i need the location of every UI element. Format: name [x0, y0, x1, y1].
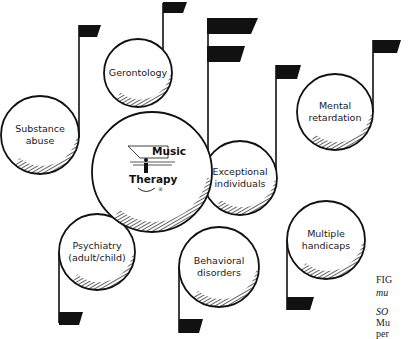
behavioral-flag	[179, 319, 203, 333]
exceptional-flag-1	[207, 18, 258, 34]
logo-mark: ®	[158, 186, 163, 192]
multiple-handicaps-flag	[287, 297, 314, 310]
logo-figure-icon	[144, 158, 148, 162]
psychiatry-flag	[59, 312, 83, 325]
logo-title-therapy: Therapy	[129, 173, 178, 185]
gerontology-flag	[163, 2, 187, 13]
figure-label: FIG	[376, 274, 392, 285]
note-heads	[1, 39, 373, 307]
substance-abuse-flag	[79, 25, 101, 37]
center-circle	[92, 112, 212, 232]
mental-retardation-label: retardation	[309, 112, 362, 123]
substance-abuse-label: Substance	[15, 123, 65, 134]
exceptional-individuals-label: individuals	[214, 178, 265, 189]
behavioral-disorders-label: disorders	[197, 267, 241, 278]
logo-figure-body	[144, 163, 148, 173]
multiple-handicaps-label: Multiple	[307, 228, 345, 239]
exceptional-flag-2	[207, 46, 245, 62]
logo-title-music: Music	[152, 145, 186, 157]
source-line-2: Mu	[376, 317, 390, 328]
multiple-handicaps-label: handicaps	[302, 240, 351, 251]
psychiatry-label: Psychiatry	[72, 240, 121, 251]
exceptional-flag-3	[276, 65, 301, 79]
substance-abuse-label: abuse	[26, 135, 55, 146]
source-line-3: per	[376, 328, 389, 339]
mental-retardation-flag	[373, 40, 401, 53]
gerontology-label: Gerontology	[109, 67, 168, 78]
source-label: SO	[376, 306, 388, 317]
psychiatry-label: (adult/child)	[68, 252, 125, 263]
figure-title-fragment: mu	[376, 287, 388, 298]
exceptional-individuals-label: Exceptional	[212, 166, 267, 177]
behavioral-disorders-label: Behavioral	[194, 255, 245, 266]
mental-retardation-label: Mental	[319, 100, 351, 111]
